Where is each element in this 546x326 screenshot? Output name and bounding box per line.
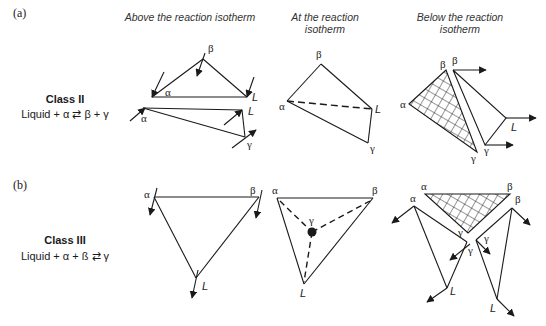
label-gamma: γ: [308, 214, 314, 226]
label-liquid: L: [490, 302, 496, 314]
label-beta: β: [208, 42, 214, 54]
label-gamma: γ: [467, 244, 473, 256]
label-beta: β: [372, 184, 378, 196]
label-gamma: γ: [457, 226, 463, 238]
class-ii-at-diagram: [287, 64, 372, 143]
label-liquid: L: [300, 287, 306, 299]
label-gamma: γ: [483, 232, 489, 244]
label-liquid: L: [202, 280, 208, 292]
label-liquid: L: [511, 121, 517, 133]
label-beta: β: [507, 180, 513, 192]
diagram-canvas: β α L α L γ β α L γ β β α L γ γ α β L α …: [0, 0, 546, 326]
label-liquid: L: [252, 91, 258, 103]
label-alpha: α: [272, 184, 278, 196]
class-iii-below-diagram: [392, 194, 530, 316]
label-beta: β: [440, 58, 446, 70]
label-alpha: α: [410, 192, 416, 204]
phase-labels: β α L α L γ β α L γ β β α L γ γ α β L α …: [141, 42, 521, 314]
label-liquid: L: [450, 285, 456, 297]
label-alpha: α: [165, 86, 171, 98]
label-liquid: L: [248, 105, 254, 117]
label-beta: β: [250, 184, 256, 196]
label-beta: β: [452, 54, 458, 66]
label-alpha: α: [141, 112, 147, 124]
label-alpha: α: [279, 100, 285, 112]
label-gamma: γ: [470, 152, 476, 164]
label-alpha: α: [400, 98, 406, 110]
class-iii-at-diagram: [277, 198, 373, 284]
label-alpha: α: [421, 180, 427, 192]
label-beta: β: [316, 48, 322, 60]
label-gamma: γ: [483, 144, 489, 156]
class-ii-above-diagram: [130, 53, 256, 148]
label-gamma: γ: [246, 138, 252, 150]
label-liquid: L: [375, 103, 381, 115]
label-beta: β: [515, 193, 521, 205]
label-gamma: γ: [369, 142, 375, 154]
label-alpha: α: [144, 188, 150, 200]
class-ii-below-diagram: [409, 70, 536, 152]
